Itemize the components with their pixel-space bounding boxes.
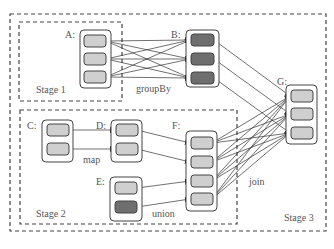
node-f — [186, 131, 217, 211]
map-edges — [68, 130, 115, 149]
op-join-label: join — [249, 177, 265, 187]
node-a — [80, 30, 111, 88]
node-g-label: G: — [277, 77, 287, 87]
node-b-label: B: — [171, 30, 180, 40]
node-g — [286, 85, 317, 144]
node-c — [42, 120, 73, 162]
stage1-label: Stage 1 — [36, 85, 66, 95]
node-b — [186, 30, 219, 87]
op-union-label: union — [152, 209, 175, 219]
stage2-label: Stage 2 — [36, 209, 66, 219]
groupby-edges — [106, 40, 190, 78]
node-f-label: F: — [172, 121, 180, 131]
op-groupby-label: groupBy — [136, 84, 171, 94]
op-map-label: map — [83, 155, 100, 165]
node-a-label: A: — [65, 30, 75, 40]
node-d-label: D: — [96, 121, 106, 131]
stage3-label: Stage 3 — [284, 213, 314, 223]
union-edges — [137, 130, 190, 207]
node-e — [110, 177, 142, 221]
node-d — [111, 120, 142, 162]
node-c-label: C: — [27, 121, 36, 131]
node-e-label: E: — [96, 177, 105, 187]
